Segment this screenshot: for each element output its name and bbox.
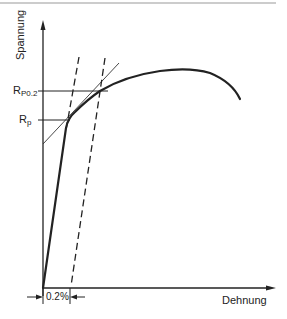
x-axis-label: Dehnung	[222, 294, 267, 306]
x-axis-arrow-icon	[266, 286, 276, 291]
y-axis-arrow-icon	[41, 20, 46, 30]
rp-label-sub: p	[27, 118, 31, 127]
rp-label: Rp	[19, 113, 31, 127]
dim-arrow-left-icon	[36, 295, 43, 300]
stress-strain-curve	[43, 69, 240, 288]
rp02-label: RP0.2	[13, 84, 37, 98]
rp02-label-main: R	[13, 84, 21, 96]
rp02-label-sub: P0.2	[21, 89, 37, 98]
tangent-line	[43, 63, 119, 144]
stress-strain-diagram	[0, 0, 287, 319]
offset-dimension-label: 0.2%	[46, 291, 69, 302]
y-axis-label: Spannung	[14, 10, 26, 60]
dashed-line-elastic	[66, 57, 79, 130]
dim-arrow-right-icon	[70, 295, 77, 300]
rp-label-main: R	[19, 113, 27, 125]
